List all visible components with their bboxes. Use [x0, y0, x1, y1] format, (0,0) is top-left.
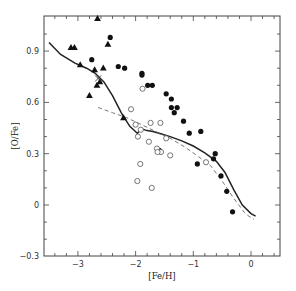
x-tick-label: −3: [72, 260, 84, 269]
filled-circle-marker: [172, 110, 177, 115]
open-circle-marker: [138, 161, 143, 166]
filled-circle-marker: [230, 209, 235, 214]
open-circle-marker: [140, 86, 145, 91]
filled-circle-marker: [175, 105, 180, 110]
data-points: [68, 15, 236, 214]
open-circle-marker: [158, 120, 163, 125]
scatter-chart: −3−2−10 −0.300.30.60.9 [Fe/H] [O/Fe]: [0, 0, 296, 291]
y-tick-labels: −0.300.30.60.9: [20, 47, 39, 261]
y-tick-label: −0.3: [20, 252, 39, 261]
open-circle-marker: [149, 185, 154, 190]
filled-circle-marker: [89, 57, 94, 62]
x-axis-label: [Fe/H]: [148, 271, 175, 281]
open-circle-marker: [138, 127, 143, 132]
y-axis-label: [O/Fe]: [10, 123, 20, 150]
open-circle-marker: [164, 136, 169, 141]
model-curves: [49, 43, 256, 220]
open-circle-marker: [168, 153, 173, 158]
open-circle-marker: [135, 178, 140, 183]
open-circle-marker: [148, 120, 153, 125]
open-circle-marker: [203, 160, 208, 165]
y-tick-label: 0: [34, 201, 39, 210]
open-circle-marker: [133, 122, 138, 127]
filled-circle-marker: [164, 91, 169, 96]
filled-circle-marker: [218, 173, 223, 178]
filled-circle-marker: [139, 72, 144, 77]
filled-circle-marker: [145, 83, 150, 88]
open-circle-marker: [128, 107, 133, 112]
filled-circle-marker: [116, 64, 121, 69]
plot-border: [44, 16, 280, 256]
axis-ticks: [44, 16, 280, 256]
triangle-marker: [105, 41, 112, 47]
open-circle-marker: [135, 134, 140, 139]
filled-circle-marker: [169, 105, 174, 110]
triangle-marker: [86, 92, 93, 98]
filled-circle-marker: [224, 189, 229, 194]
open-circle-marker: [155, 149, 160, 154]
y-tick-label: 0.6: [26, 98, 39, 107]
filled-circle-marker: [108, 35, 113, 40]
filled-circle-marker: [169, 96, 174, 101]
triangle-marker: [91, 66, 98, 72]
filled-circle-marker: [181, 119, 186, 124]
filled-circle-marker: [122, 66, 127, 71]
open-circle-marker: [146, 139, 151, 144]
filled-circle-marker: [195, 161, 200, 166]
x-tick-label: −2: [130, 260, 142, 269]
filled-circle-marker: [213, 151, 218, 156]
filled-circle-marker: [211, 156, 216, 161]
filled-circle-marker: [187, 131, 192, 136]
y-tick-label: 0.9: [26, 47, 39, 56]
x-tick-label: 0: [248, 260, 253, 269]
x-tick-label: −1: [187, 260, 199, 269]
plot-frame: [44, 16, 280, 256]
x-tick-labels: −3−2−10: [72, 260, 254, 269]
filled-circle-marker: [198, 129, 203, 134]
filled-circle-marker: [150, 83, 155, 88]
y-tick-label: 0.3: [26, 150, 39, 159]
triangle-marker: [100, 65, 107, 71]
model-dashed: [98, 108, 254, 220]
